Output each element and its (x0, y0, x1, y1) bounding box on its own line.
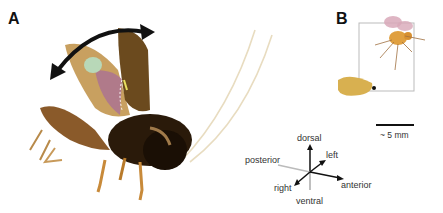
axis-label-anterior: anterior (341, 180, 372, 190)
axis-label-right: right (274, 183, 292, 193)
axis-label-posterior: posterior (245, 155, 280, 165)
axis-label-dorsal: dorsal (297, 133, 322, 143)
figure-artwork (0, 0, 443, 213)
scale-bar-label: ~ 5 mm (380, 130, 409, 140)
axis-label-left: left (326, 150, 338, 160)
cricket-illustration (30, 28, 272, 200)
fly-and-larva-illustration (338, 16, 425, 96)
axis-label-ventral: ventral (296, 196, 323, 206)
